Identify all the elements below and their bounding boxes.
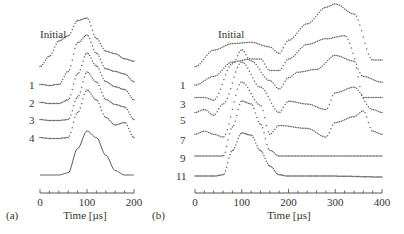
- panel-a-trace-label-3: 3: [29, 114, 35, 126]
- panel-a-trace-label-2: 2: [29, 97, 35, 109]
- panel-b-x-axis-title: Time [µs]: [267, 209, 311, 221]
- panel-b-trace-label-initial: Initial: [218, 28, 244, 40]
- panel-a-reference-curve: [40, 131, 134, 175]
- panel-a-x-axis-title: Time [µs]: [63, 209, 107, 221]
- panel-b-x-axis: 0 100 200 300 400 Time [µs]: [192, 189, 391, 221]
- panel-b-label: (b): [152, 209, 165, 222]
- panel-b-trace-label-3: 3: [180, 98, 186, 110]
- panel-b-trace-label-1: 1: [180, 79, 186, 91]
- panel-b-tick-label: 400: [374, 196, 391, 208]
- panel-a-trace-label-initial: Initial: [40, 28, 66, 40]
- panel-a-trace-label-1: 1: [29, 79, 35, 91]
- panel-b-trace-label-11: 11: [176, 170, 187, 182]
- panel-b-tick-label: 200: [280, 196, 297, 208]
- panel-b-trace-label-7: 7: [180, 134, 186, 146]
- panel-b-tick-label: 300: [327, 196, 344, 208]
- panel-b-tick-label: 100: [234, 196, 251, 208]
- panel-a-trace-label-4: 4: [29, 132, 35, 144]
- panel-a-label: (a): [6, 209, 19, 222]
- panel-b-tick-label: 0: [192, 196, 198, 208]
- panel-a-tick-label: 0: [37, 196, 43, 208]
- panel-b-trace-label-5: 5: [180, 114, 186, 126]
- figure: Initial 1 2 3 4 0 100 200 Time [µs] (a) …: [0, 0, 404, 234]
- panel-a: Initial 1 2 3 4 0 100 200 Time [µs] (a): [6, 17, 143, 222]
- panel-a-tick-label: 100: [79, 196, 96, 208]
- panel-b: Initial 1 3 5 7 9 11 0 100 200 300 400 T…: [152, 3, 391, 222]
- panel-a-tick-label: 200: [126, 196, 143, 208]
- panel-b-trace-label-9: 9: [180, 152, 186, 164]
- panel-a-x-axis: 0 100 200 Time [µs]: [37, 189, 143, 221]
